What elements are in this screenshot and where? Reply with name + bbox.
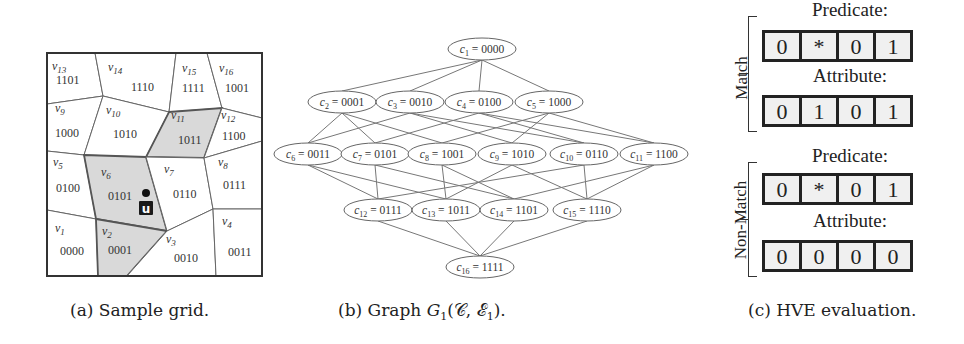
hve-evaluation: Match Predicate: 0 * 0 1 Attribute: 0 1 … (0, 0, 964, 344)
non-match-attribute-vector: 0 0 0 0 (762, 240, 913, 272)
non-match-bracket-tick (739, 219, 749, 220)
attribute-bit: 0 (839, 98, 876, 124)
match-attribute-vector: 0 1 0 1 (762, 95, 913, 127)
non-match-predicate-title: Predicate: (770, 145, 930, 167)
caption-b-text: (b) Graph G1(𝒞, ℰ1). (338, 300, 506, 320)
attribute-bit: 1 (876, 98, 910, 124)
predicate-bit: 1 (876, 176, 910, 202)
predicate-bit: 0 (839, 176, 876, 202)
match-predicate-title: Predicate: (770, 0, 930, 21)
predicate-bit: 0 (839, 33, 876, 59)
attribute-bit: 0 (802, 243, 839, 269)
predicate-bit: 0 (765, 176, 802, 202)
caption-b: (b) Graph G1(𝒞, ℰ1). (338, 300, 506, 323)
match-predicate-vector: 0 * 0 1 (762, 30, 913, 62)
match-bracket-tick (739, 73, 749, 74)
match-bracket (748, 16, 757, 132)
non-match-predicate-vector: 0 * 0 1 (762, 173, 913, 205)
attribute-bit: 0 (839, 243, 876, 269)
predicate-bit: * (802, 176, 839, 202)
caption-a: (a) Sample grid. (70, 300, 209, 320)
predicate-bit: 1 (876, 33, 910, 59)
match-attribute-title: Attribute: (770, 65, 930, 87)
attribute-bit: 0 (765, 243, 802, 269)
non-match-attribute-title: Attribute: (770, 210, 930, 232)
caption-c: (c) HVE evaluation. (748, 300, 916, 320)
predicate-bit: * (802, 33, 839, 59)
attribute-bit: 0 (765, 98, 802, 124)
attribute-bit: 0 (876, 243, 910, 269)
predicate-bit: 0 (765, 33, 802, 59)
attribute-bit: 1 (802, 98, 839, 124)
non-match-bracket (748, 162, 757, 277)
